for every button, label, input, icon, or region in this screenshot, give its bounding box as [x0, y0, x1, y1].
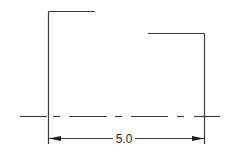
- right-bracket: [148, 34, 205, 145]
- dimension-line: 5.0: [49, 132, 204, 146]
- arrow-right-icon: [192, 136, 204, 141]
- left-bracket: [49, 12, 96, 145]
- dimension-label: 5.0: [116, 132, 133, 146]
- technical-drawing: 5.0: [0, 0, 231, 160]
- arrow-left-icon: [49, 136, 61, 141]
